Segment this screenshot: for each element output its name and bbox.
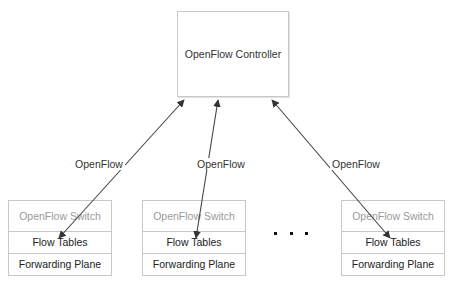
openflow-link-2-label: OpenFlow bbox=[195, 158, 247, 170]
ellipsis-dot bbox=[305, 232, 308, 235]
ellipsis-dot bbox=[290, 232, 293, 235]
openflow-link-1-label: OpenFlow bbox=[73, 158, 125, 170]
ellipsis-dot bbox=[274, 232, 277, 235]
openflow-link-3-label: OpenFlow bbox=[330, 158, 382, 170]
connection-arrows bbox=[0, 0, 452, 288]
